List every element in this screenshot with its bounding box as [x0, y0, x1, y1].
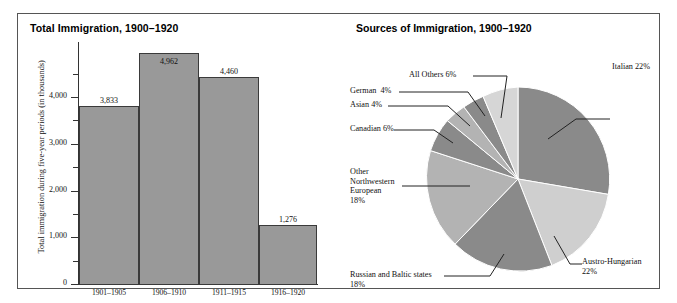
y-tick-0: 0	[71, 284, 79, 285]
pie-chart-graphic	[338, 14, 661, 288]
pie-label-all-others: All Others 6%	[409, 70, 456, 80]
y-tick-label-3000: 3,000	[49, 138, 67, 147]
x-tick-label-1901-1905: 1901–1905	[80, 288, 138, 297]
pie-label-other-northwestern-european: OtherNorthwesternEuropean18%	[350, 167, 395, 205]
bar-chart-title: Total Immigration, 1900–1920	[30, 22, 179, 34]
bar-1916-1920[interactable]: 1,276 1916–1920	[259, 225, 317, 285]
pie-label-italian: Italian 22%	[612, 62, 650, 72]
bar-value-1901-1905: 3,833	[80, 96, 138, 105]
pie-label-asian: Asian 4%	[350, 100, 382, 110]
bar-chart-panel: Total Immigration, 1900–1920 Total immig…	[18, 14, 338, 288]
bar-chart-plot-area: 0 1,000 2,000 3,000 4,000 3,833	[78, 42, 318, 285]
pie-label-other-nw-line1: Other	[350, 167, 369, 176]
y-tick-minor-4500	[73, 74, 79, 75]
y-tick-label-4000: 4,000	[49, 91, 67, 100]
y-tick-2000: 2,000	[71, 191, 79, 192]
bar-1901-1905[interactable]: 3,833 1901–1905	[79, 106, 139, 285]
pie-label-austro-hungarian-line1: Austro-Hungarian	[582, 257, 642, 266]
bar-value-1916-1920: 1,276	[260, 215, 316, 224]
x-tick-label-1911-1915: 1911–1915	[200, 288, 258, 297]
bar-value-1906-1910: 4,962	[140, 57, 198, 66]
y-tick-label-1000: 1,000	[49, 231, 67, 240]
bar-value-1911-1915: 4,460	[200, 67, 258, 76]
pie-label-russian-line1: Russian and Baltic states	[350, 270, 432, 279]
pie-label-canadian: Canadian 6%	[350, 124, 394, 134]
y-tick-4000: 4,000	[71, 97, 79, 98]
y-tick-3000: 3,000	[71, 144, 79, 145]
y-tick-label-0: 0	[63, 278, 67, 287]
pie-label-other-nw-line3: European	[350, 186, 381, 195]
pie-label-german: German 4%	[350, 86, 391, 96]
pie-slice-italian[interactable]	[518, 87, 610, 194]
bar-chart-y-axis-label: Total immigration during five-year perio…	[37, 64, 46, 254]
pie-label-russian-line2: 18%	[350, 280, 365, 289]
x-tick-label-1906-1910: 1906–1910	[140, 288, 198, 297]
x-tick-label-1916-1920: 1916–1920	[260, 288, 316, 297]
figure-frame: Total Immigration, 1900–1920 Total immig…	[17, 13, 660, 289]
bar-1906-1910[interactable]: 4,962 1906–1910	[139, 53, 199, 285]
pie-label-russian-and-baltic-states: Russian and Baltic states18%	[350, 270, 432, 289]
bar-1911-1915[interactable]: 4,460 1911–1915	[199, 77, 259, 285]
pie-label-other-nw-line2: Northwestern	[350, 177, 395, 186]
pie-label-austro-hungarian: Austro-Hungarian22%	[582, 257, 642, 276]
pie-chart-panel: Sources of Immigration, 1900–1920	[338, 14, 661, 288]
y-tick-1000: 1,000	[71, 237, 79, 238]
y-tick-label-2000: 2,000	[49, 185, 67, 194]
pie-label-austro-hungarian-line2: 22%	[582, 267, 597, 276]
pie-label-other-nw-line4: 18%	[350, 196, 365, 205]
